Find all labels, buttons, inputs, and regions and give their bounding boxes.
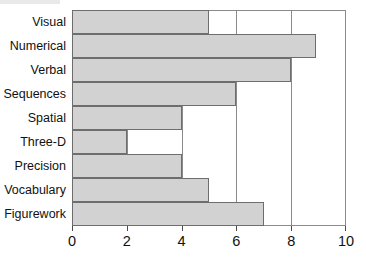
x-axis-tick [182, 226, 183, 231]
y-axis-label-visual: Visual [32, 10, 66, 34]
image-artifact-strip [0, 0, 60, 4]
y-axis-category-labels: VisualNumericalVerbalSequencesSpatialThr… [0, 10, 66, 226]
y-axis-label-verbal: Verbal [31, 58, 66, 82]
y-axis-label-spatial: Spatial [28, 106, 66, 130]
y-axis-label-precision: Precision [15, 154, 66, 178]
bars-layer [72, 10, 346, 226]
bar-vocabulary[interactable] [72, 178, 209, 202]
y-axis-label-numerical: Numerical [10, 34, 66, 58]
x-axis-tick [345, 226, 346, 231]
x-axis-tick-label-0: 0 [68, 233, 76, 249]
x-axis-tick-label-8: 8 [287, 233, 295, 249]
bar-chart: VisualNumericalVerbalSequencesSpatialThr… [0, 0, 366, 258]
x-axis-tick-label-4: 4 [178, 233, 186, 249]
bar-row [72, 10, 346, 34]
bar-visual[interactable] [72, 10, 209, 34]
bar-row [72, 178, 346, 202]
y-axis-label-sequences: Sequences [3, 82, 66, 106]
x-axis-tick [236, 226, 237, 231]
bar-figurework[interactable] [72, 202, 264, 226]
x-axis-tick [72, 226, 73, 231]
x-axis-tick [291, 226, 292, 231]
bar-verbal[interactable] [72, 58, 291, 82]
x-axis: 0246810 [72, 226, 346, 258]
bar-sequences[interactable] [72, 82, 236, 106]
bar-spatial[interactable] [72, 106, 182, 130]
x-axis-tick [127, 226, 128, 231]
bar-row [72, 58, 346, 82]
x-axis-tick-label-2: 2 [123, 233, 131, 249]
bar-row [72, 106, 346, 130]
x-axis-tick-label-10: 10 [338, 233, 354, 249]
y-axis-label-vocabulary: Vocabulary [4, 178, 66, 202]
bar-row [72, 34, 346, 58]
bar-row [72, 202, 346, 226]
bar-row [72, 154, 346, 178]
y-axis-label-three-d: Three-D [20, 130, 66, 154]
y-axis-label-figurework: Figurework [4, 202, 66, 226]
bar-precision[interactable] [72, 154, 182, 178]
bar-row [72, 130, 346, 154]
bar-numerical[interactable] [72, 34, 316, 58]
x-axis-tick-label-6: 6 [232, 233, 240, 249]
bar-three-d[interactable] [72, 130, 127, 154]
bar-row [72, 82, 346, 106]
